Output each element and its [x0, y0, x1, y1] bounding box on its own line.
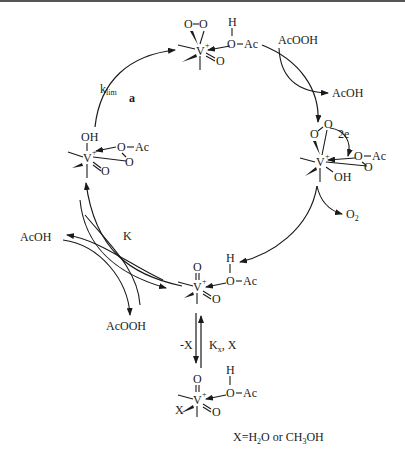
svg-text:O: O [216, 54, 225, 68]
klim-label: klim [100, 82, 117, 97]
Kx-label: Kx, X [209, 338, 237, 354]
complex-left-hydroperoxo: OH V + O O O Ac [68, 130, 149, 178]
svg-text:O: O [212, 292, 221, 306]
svg-text:O: O [227, 37, 236, 51]
product-acoh-top: AcOH [332, 86, 364, 100]
equilibrium-K-arrows [63, 183, 182, 315]
svg-text:O: O [184, 17, 193, 31]
svg-text:Ac: Ac [135, 140, 149, 154]
svg-text:Ac: Ac [243, 386, 257, 400]
svg-text:O: O [354, 149, 363, 163]
svg-text:V: V [316, 155, 325, 169]
svg-text:+: + [92, 148, 97, 157]
svg-text:O: O [310, 127, 319, 141]
minus-x-label: -X [180, 338, 193, 352]
svg-text:Ac: Ac [372, 149, 386, 163]
svg-text:O: O [101, 164, 110, 178]
svg-text:O: O [226, 386, 235, 400]
svg-text:+: + [202, 390, 207, 399]
svg-text:O: O [125, 155, 134, 169]
svg-text:O: O [212, 405, 221, 419]
electron-transfer-label: 2e [338, 127, 349, 141]
svg-text:+: + [202, 277, 207, 286]
svg-text:OH: OH [334, 170, 352, 184]
complex-bottom-x-adduct: O V + X O H O Ac [175, 363, 257, 419]
svg-text:Ac: Ac [244, 37, 258, 51]
svg-text:OH: OH [81, 130, 99, 144]
catalytic-cycle-diagram: O O V + O H O Ac AcOOH AcOH O O 2e V + [0, 0, 405, 454]
arrow-top-to-right [262, 45, 318, 122]
svg-text:V: V [193, 280, 202, 294]
svg-text:+: + [205, 41, 210, 50]
complex-bottom-oxo: O V + O H O Ac [178, 251, 257, 306]
svg-text:O: O [324, 117, 333, 131]
svg-text:H: H [228, 15, 237, 29]
svg-text:X: X [175, 403, 184, 417]
complex-top-peroxo: O O V + O H O Ac [178, 15, 258, 70]
reagent-acooh-top: AcOOH [278, 33, 318, 47]
arrow-acooh-to-acoh [279, 48, 328, 93]
svg-text:V: V [193, 393, 202, 407]
product-o2: O2 [346, 207, 359, 223]
svg-text:O: O [193, 372, 202, 386]
complex-right-peroxo-oh: O O 2e V + OH O O Ac [300, 117, 386, 184]
species-acooh-left: AcOOH [106, 319, 146, 333]
svg-text:H: H [226, 251, 235, 265]
species-acoh-left: AcOH [20, 230, 52, 244]
panel-label-a: a [129, 91, 135, 105]
svg-text:H: H [226, 363, 235, 377]
K-label: K [123, 229, 132, 243]
svg-text:O: O [226, 274, 235, 288]
arrow-right-to-bottom [240, 186, 317, 262]
svg-text:O: O [117, 140, 126, 154]
equilibrium-Kx-arrows [196, 313, 201, 368]
svg-text:V: V [196, 44, 205, 58]
svg-text:O: O [193, 260, 202, 274]
arrow-o2-release [317, 186, 342, 214]
svg-text:V: V [83, 151, 92, 165]
svg-text:Ac: Ac [243, 274, 257, 288]
svg-text:O: O [199, 17, 208, 31]
x-definition: X=H2O or CH3OH [233, 430, 324, 446]
